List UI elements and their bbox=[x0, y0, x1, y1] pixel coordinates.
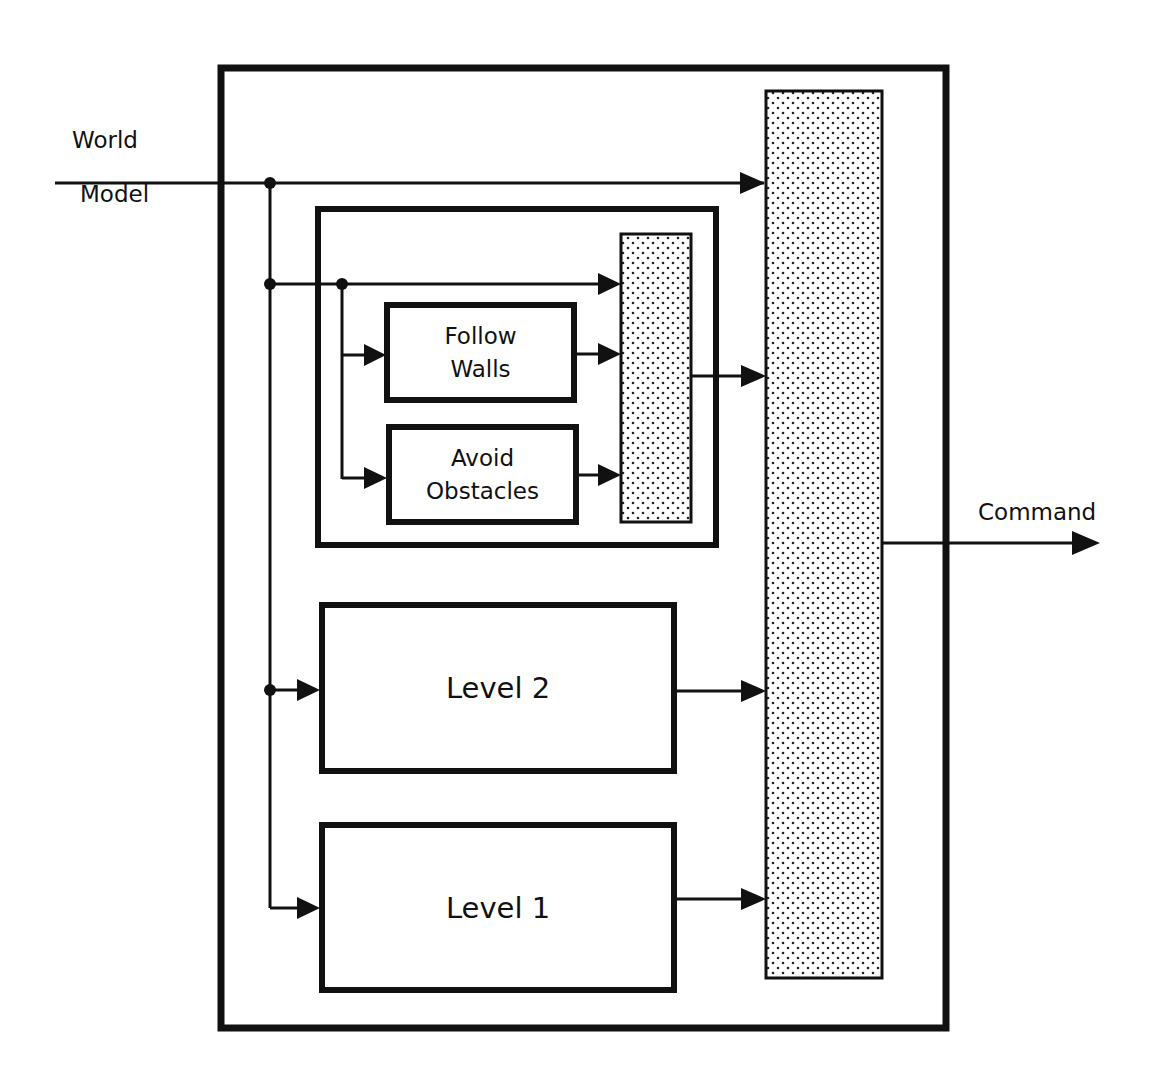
avoid-obstacles-label: Avoid Obstacles bbox=[392, 430, 573, 519]
avoid-obstacles-line1: Avoid bbox=[451, 442, 514, 475]
level3-arbiter-bar bbox=[621, 234, 691, 522]
level1-text: Level 1 bbox=[446, 891, 550, 925]
output-label-command: Command bbox=[978, 501, 1096, 524]
follow-walls-line2: Walls bbox=[450, 353, 510, 386]
level1-label: Level 1 bbox=[325, 828, 671, 987]
arrow-to-follow-walls bbox=[364, 344, 386, 366]
arrow-follow-walls-to-arbiter bbox=[598, 343, 621, 365]
avoid-obstacles-line2: Obstacles bbox=[426, 475, 539, 508]
arrow-level2-to-main-arbiter bbox=[741, 680, 766, 702]
follow-walls-label: Follow Walls bbox=[390, 308, 571, 397]
input-label-world: World bbox=[72, 129, 138, 152]
junction-dot bbox=[264, 177, 276, 189]
arrow-avoid-obstacles-to-arbiter bbox=[598, 464, 621, 486]
arrow-to-main-arbiter-top bbox=[740, 172, 765, 194]
arrow-to-level3-arbiter bbox=[598, 273, 621, 295]
arrow-to-level1 bbox=[297, 897, 320, 919]
arrow-to-level2 bbox=[297, 679, 320, 701]
follow-walls-line1: Follow bbox=[444, 320, 516, 353]
arrow-to-avoid-obstacles bbox=[364, 467, 387, 489]
arrow-level3-to-main-arbiter bbox=[741, 365, 766, 387]
level2-label: Level 2 bbox=[325, 608, 671, 768]
level2-text: Level 2 bbox=[446, 671, 550, 705]
arrow-command-output bbox=[1072, 531, 1100, 555]
main-arbiter-bar bbox=[766, 91, 882, 978]
input-label-model: Model bbox=[80, 183, 149, 206]
arrow-level1-to-main-arbiter bbox=[741, 888, 766, 910]
